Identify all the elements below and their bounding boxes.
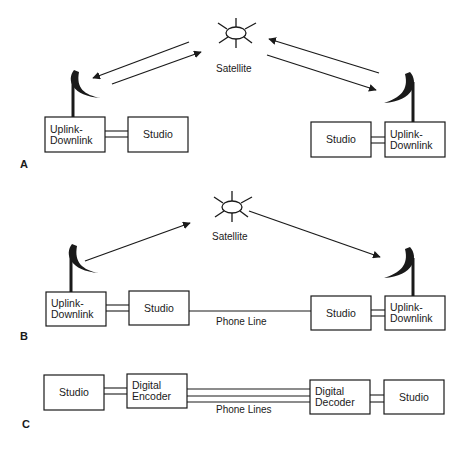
downlink-arrow [249,211,380,257]
uplink-downlink-label: Uplink- Downlink [45,117,105,152]
studio-label: Studio [128,117,188,152]
studio-label: Studio [311,122,371,157]
uplink-label-line2: Downlink [390,140,445,151]
uplink-label-line2: Downlink [390,313,445,324]
satellite-icon [218,18,256,48]
uplink-label-line1: Uplink- [50,124,105,135]
uplink-arrow [85,223,190,261]
downlink-arrow-right [267,55,376,90]
satellite-dish-icon [384,72,414,122]
studio-label: Studio [384,380,444,414]
digital-encoder-label: Digital Encoder [127,374,187,408]
panel-letter-b: B [20,330,28,342]
uplink-downlink-label: Uplink- Downlink [385,122,445,157]
encoder-label-line2: Encoder [132,391,187,402]
phone-lines [187,389,310,402]
uplink-label-line1: Uplink- [390,129,445,140]
uplink-arrow-right [269,39,379,73]
phone-lines-label: Phone Lines [216,404,272,415]
satellite-icon [214,191,252,222]
panel-letter-c: C [22,418,30,430]
satellite-label: Satellite [212,231,248,242]
uplink-downlink-label: Uplink- Downlink [385,296,445,330]
panel-letter-a: A [20,158,28,170]
studio-label: Studio [44,375,104,410]
satellite-label: Satellite [216,63,252,74]
uplink-label-line2: Downlink [51,309,106,320]
digital-decoder-label: Digital Decoder [310,380,370,414]
phone-line-label: Phone Line [216,316,267,327]
studio-label: Studio [129,291,189,325]
satellite-dish-icon [384,247,414,296]
satellite-dish-icon [69,244,99,292]
uplink-label-line2: Downlink [50,135,105,146]
uplink-downlink-label: Uplink- Downlink [46,292,106,326]
studio-label: Studio [311,296,371,330]
downlink-arrow-left [93,42,189,78]
decoder-label-line2: Decoder [315,397,370,408]
uplink-arrow-left [112,52,201,84]
